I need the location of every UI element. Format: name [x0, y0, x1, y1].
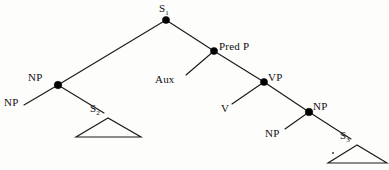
edge-s1-to-np-subject	[58, 20, 166, 85]
edge-np-object-to-np-terminal	[285, 112, 309, 129]
scan-speck	[332, 152, 334, 154]
edge-predp-to-vp	[214, 51, 264, 82]
label-aux: Aux	[155, 74, 175, 85]
label-verb: V	[221, 103, 229, 114]
syntax-tree-diagram: S1 NP NP S2 Pred P Aux VP V NP NP S3	[0, 0, 389, 170]
node-dot-vp	[260, 78, 267, 85]
label-np-subject-terminal: NP	[4, 97, 18, 108]
label-s2-subscript: 2	[96, 109, 100, 117]
edge-s1-to-predp	[166, 20, 214, 51]
label-np-object-node: NP	[313, 101, 327, 112]
label-s3: S3	[340, 130, 350, 144]
label-s1: S1	[159, 3, 169, 17]
tree-graphics-layer	[0, 0, 389, 170]
label-s1-subscript: 1	[165, 9, 169, 17]
triangle-s2	[76, 118, 141, 137]
label-s3-subscript: 3	[346, 136, 350, 144]
label-verb-phrase: VP	[268, 72, 282, 83]
label-np-subject-node: NP	[28, 72, 42, 83]
label-pred-phrase: Pred P	[219, 41, 249, 52]
edge-predp-to-aux	[186, 51, 214, 75]
label-s2: S2	[90, 103, 100, 117]
node-dot-predp	[210, 47, 217, 54]
edge-np-subject-to-np-terminal	[24, 85, 58, 105]
node-dot-np-subject	[54, 81, 62, 89]
node-dot-s1	[162, 16, 169, 23]
edge-vp-to-v	[232, 82, 264, 104]
node-dot-np-object	[305, 108, 313, 116]
label-np-object-terminal: NP	[265, 128, 279, 139]
triangle-s3	[328, 145, 387, 163]
edge-vp-to-np-object	[264, 82, 309, 112]
